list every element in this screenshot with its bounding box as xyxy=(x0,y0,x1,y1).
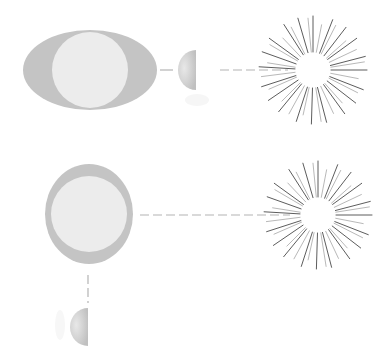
panel-aligned xyxy=(23,16,367,124)
sun-icon xyxy=(264,161,372,269)
moon xyxy=(178,50,209,106)
tidal-diagram xyxy=(0,0,387,358)
earth xyxy=(51,176,127,252)
earth xyxy=(52,32,128,108)
panel-perpendicular xyxy=(45,161,372,346)
moon xyxy=(55,308,88,346)
